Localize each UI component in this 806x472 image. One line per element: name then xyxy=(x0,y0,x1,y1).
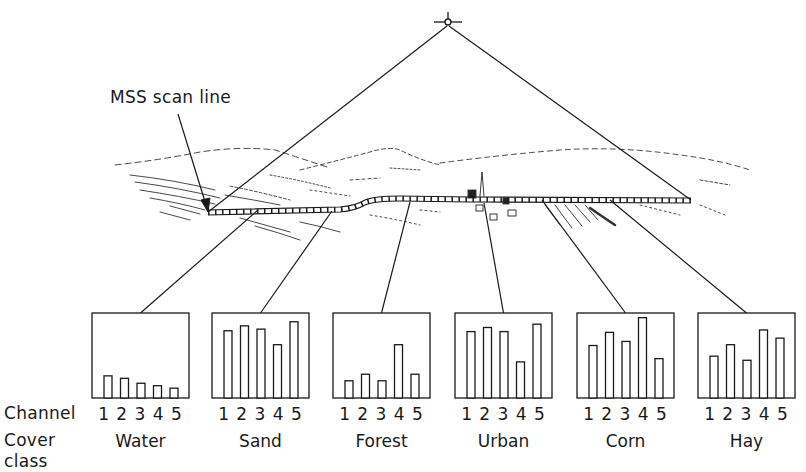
bar-panel-hay xyxy=(698,313,795,398)
bar-channel-5 xyxy=(533,324,541,398)
bar-channel-3 xyxy=(378,381,386,398)
bar-channel-5 xyxy=(776,338,784,398)
bar-channel-4 xyxy=(639,318,647,398)
bar-channel-1 xyxy=(104,376,112,398)
bar-channel-2 xyxy=(727,345,735,398)
bar-channel-4 xyxy=(274,345,282,398)
connector-forest xyxy=(382,202,411,313)
bar-channel-4 xyxy=(395,345,403,398)
channel-numbers: 1 2 3 4 5 xyxy=(454,404,554,424)
bar-panel-corn xyxy=(577,313,674,398)
bar-channel-2 xyxy=(606,332,614,398)
bar-panel-forest xyxy=(333,313,430,398)
bar-channel-1 xyxy=(710,356,718,398)
bar-channel-2 xyxy=(121,378,129,398)
annotation-label: MSS scan line xyxy=(110,88,231,106)
bar-channel-4 xyxy=(517,362,525,398)
mss-scan-diagram xyxy=(0,0,806,472)
bar-channel-1 xyxy=(467,332,475,398)
cover-class-label: Water xyxy=(81,431,201,451)
bar-channel-3 xyxy=(137,383,145,398)
bar-panel-urban xyxy=(455,313,552,398)
bar-panel-sand xyxy=(212,313,309,398)
channel-numbers: 1 2 3 4 5 xyxy=(91,404,191,424)
landscape-sketch xyxy=(115,148,750,240)
bar-channel-5 xyxy=(290,322,298,398)
satellite-icon xyxy=(434,12,462,25)
channel-row-label: Channel xyxy=(4,404,76,422)
bar-channel-5 xyxy=(170,388,178,398)
cover-class-label: Hay xyxy=(687,431,806,451)
bar-channel-2 xyxy=(484,327,492,398)
bar-channel-4 xyxy=(760,330,768,398)
bar-channel-5 xyxy=(655,359,663,398)
bar-channel-2 xyxy=(362,374,370,398)
channel-numbers: 1 2 3 4 5 xyxy=(211,404,311,424)
scan-line xyxy=(208,196,691,215)
connector-water xyxy=(141,210,259,313)
cover-class-label: Corn xyxy=(566,431,686,451)
bar-channel-4 xyxy=(154,386,162,398)
bar-channel-1 xyxy=(224,331,232,398)
connector-corn xyxy=(542,200,626,313)
bar-channel-1 xyxy=(589,346,597,398)
cover-class-label: Urban xyxy=(444,431,564,451)
cover-class-row-label-1: Cover xyxy=(4,431,55,449)
cover-class-label: Sand xyxy=(201,431,321,451)
bar-channel-2 xyxy=(241,326,249,398)
bar-chart-panels xyxy=(92,313,795,398)
channel-numbers: 1 2 3 4 5 xyxy=(332,404,432,424)
connector-hay xyxy=(610,200,747,313)
connector-lines xyxy=(141,200,747,313)
channel-numbers: 1 2 3 4 5 xyxy=(697,404,797,424)
cover-class-label: Forest xyxy=(322,431,442,451)
field-of-view-lines xyxy=(208,26,691,212)
channel-numbers: 1 2 3 4 5 xyxy=(576,404,676,424)
bar-channel-1 xyxy=(345,381,353,398)
bar-channel-5 xyxy=(411,374,419,398)
bar-channel-3 xyxy=(257,329,265,398)
bar-channel-3 xyxy=(743,360,751,398)
bar-channel-3 xyxy=(500,332,508,398)
bar-channel-3 xyxy=(622,341,630,398)
cover-class-row-label-2: class xyxy=(4,452,48,470)
bar-panel-water xyxy=(92,313,189,398)
